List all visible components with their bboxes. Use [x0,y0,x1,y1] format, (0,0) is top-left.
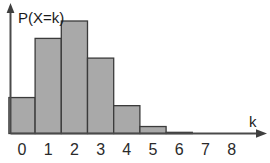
bar-k-5 [140,127,166,134]
x-tick-labels-group: 012345678 [18,141,237,158]
x-tick-label-2: 2 [70,141,79,158]
x-tick-label-0: 0 [18,141,27,158]
x-tick-label-1: 1 [44,141,53,158]
y-axis-arrowhead [7,3,15,13]
bar-k-4 [114,106,140,134]
chart-figure: P(X=k) k 012345678 [0,0,270,163]
x-tick-label-6: 6 [175,141,184,158]
x-tick-label-3: 3 [96,141,105,158]
bar-k-1 [35,38,61,133]
x-axis-arrowhead [256,129,267,138]
bar-k-0 [9,98,35,134]
y-axis-label: P(X=k) [18,9,64,26]
bar-chart-plot: P(X=k) k 012345678 [0,0,270,163]
x-tick-label-7: 7 [201,141,210,158]
bar-k-2 [61,21,87,134]
x-tick-label-8: 8 [227,141,236,158]
x-axis-label: k [249,113,257,130]
bar-k-3 [88,58,114,133]
x-tick-label-4: 4 [122,141,131,158]
x-tick-label-5: 5 [149,141,158,158]
bar-series-group [9,21,192,134]
